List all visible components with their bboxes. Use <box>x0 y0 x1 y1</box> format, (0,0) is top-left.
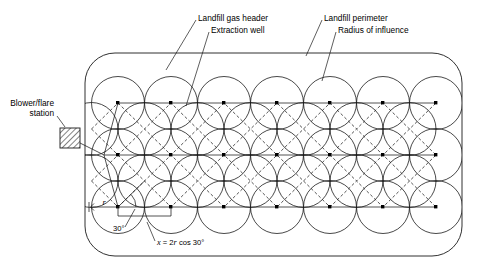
extraction-well <box>169 101 172 104</box>
leader-landfill-gas-header <box>166 20 196 70</box>
extraction-well <box>222 153 225 156</box>
angle-indicator <box>118 181 145 207</box>
leader-landfill-perimeter <box>306 20 322 56</box>
formula-tail: cos 30° <box>177 238 205 247</box>
leader-radius-of-influence <box>322 32 336 81</box>
landfill-gas-well-field-diagram: Landfill gas header Extraction well Land… <box>0 0 482 273</box>
leader-angle <box>125 209 135 227</box>
extraction-well <box>169 153 172 156</box>
extraction-well <box>116 101 119 104</box>
label-blower-flare-line1: Blower/flare <box>10 98 54 108</box>
extraction-well <box>275 101 278 104</box>
extraction-well <box>381 205 384 208</box>
blower-flare-station <box>60 128 80 148</box>
extraction-well <box>222 101 225 104</box>
extraction-well <box>328 205 331 208</box>
extraction-well <box>222 205 225 208</box>
label-radius-symbol: r <box>102 198 106 207</box>
extraction-well <box>275 153 278 156</box>
diagram-canvas: Landfill gas header Extraction well Land… <box>0 0 482 273</box>
extraction-well <box>275 205 278 208</box>
label-landfill-perimeter: Landfill perimeter <box>324 13 388 23</box>
extraction-well <box>328 153 331 156</box>
label-angle-30: 30° <box>113 224 124 233</box>
extraction-well <box>434 101 437 104</box>
extraction-well <box>381 101 384 104</box>
extraction-well <box>434 205 437 208</box>
label-extraction-well: Extraction well <box>211 25 265 35</box>
extraction-well <box>434 153 437 156</box>
extraction-well <box>116 153 119 156</box>
extraction-well <box>328 101 331 104</box>
formula-eq: = 2 <box>161 238 174 247</box>
leader-blower-flare <box>57 116 65 127</box>
label-radius-of-influence: Radius of influence <box>338 25 409 35</box>
extraction-well <box>381 153 384 156</box>
label-blower-flare-line2: station <box>30 108 55 118</box>
leader-extraction-well <box>186 32 209 106</box>
label-landfill-gas-header: Landfill gas header <box>198 13 268 23</box>
label-spacing-formula: x = 2r cos 30° <box>156 238 204 247</box>
